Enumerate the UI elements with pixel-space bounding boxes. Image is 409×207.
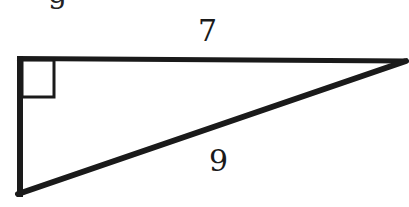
right-angle-marker (22, 60, 54, 97)
triangle-figure: g 7 9 (0, 0, 409, 207)
top-side-label: 7 (198, 16, 217, 46)
hypotenuse-label: 9 (209, 146, 228, 176)
top-side-line (17, 59, 405, 62)
